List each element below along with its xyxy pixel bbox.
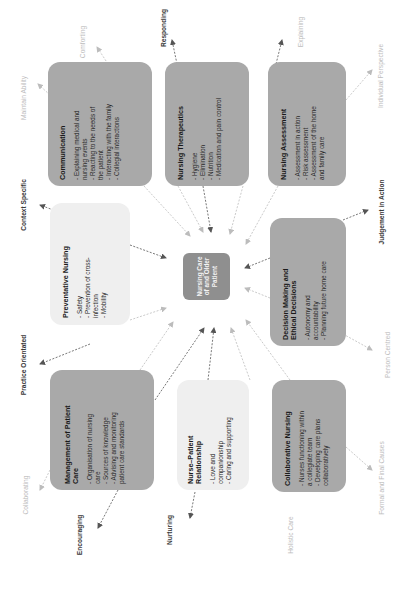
box-item: the patient — [97, 150, 105, 180]
arrow-preventative-to-center — [130, 245, 166, 258]
box-item: - Love and — [209, 453, 216, 484]
arrow-collaborative-to-center — [231, 328, 250, 380]
box-item: - Medication and pain control — [215, 98, 223, 180]
arrow-to-explaining — [276, 40, 282, 64]
box-item: - Caring and supporting — [225, 417, 233, 484]
label-collaborating: Collaborating — [22, 475, 30, 514]
box-item: - Organisation of nursing — [86, 414, 94, 484]
arrow-assessment-to-center — [230, 186, 243, 234]
box-title: Relationship — [194, 440, 203, 484]
box-title: Communication — [58, 126, 67, 180]
arrow-decision-to-center — [245, 258, 270, 268]
arrow-to-formal-final-causes — [346, 447, 372, 470]
box-nurse-patient-relationship: Nurse–Patient Relationship - Love and co… — [177, 380, 249, 490]
box-item: - Autonomy and — [304, 295, 312, 340]
box-item: infection — [92, 294, 99, 318]
arrow-to-judgement-in-action — [343, 210, 368, 220]
label-encouraging: Encouraging — [76, 515, 84, 555]
nursing-care-diagram: Communication - Explaining medical and n… — [0, 0, 404, 602]
label-formal-final-causes: Formal and Final Causes — [378, 440, 385, 514]
box-item: collaboratively — [322, 445, 330, 486]
box-item: - Prevention of cross- — [84, 257, 91, 318]
arrow-to-collaborating — [40, 470, 50, 490]
box-item: - Nurses functioning within — [298, 411, 306, 486]
arrow-to-encouraging — [98, 490, 118, 528]
box-item: nursing events — [81, 138, 89, 180]
arrow-decision-to-center-2 — [245, 288, 270, 298]
label-person-centred: Person Centred — [384, 332, 391, 379]
arrow-therapeutics-to-center — [203, 186, 211, 232]
arrow-to-individual-perspective — [346, 70, 372, 100]
box-title: Nursing Assessment — [279, 108, 288, 180]
box-preventative-nursing: Preventative Nursing - Safety - Preventi… — [50, 203, 130, 325]
arrow-to-person-centred — [343, 334, 372, 350]
box-item: care — [94, 471, 101, 484]
box-item: - Planning future home care — [320, 261, 328, 340]
box-item: - Developing care plans — [314, 419, 322, 486]
box-item: accountability — [312, 300, 320, 340]
box-communication: Communication - Explaining medical and n… — [48, 62, 152, 186]
box-title: Preventative Nursing — [61, 246, 70, 318]
label-judgement-in-action: Judgement in Action — [378, 180, 386, 245]
box-item: - Interacting with the family — [105, 103, 113, 180]
box-title: Ethical Decisions — [289, 280, 298, 340]
box-item: - Hygiene — [191, 152, 199, 180]
box-item: - Explaining medical and — [73, 110, 81, 180]
box-item: and family care — [318, 136, 326, 180]
box-nursing-therapeutics: Nursing Therapeutics - Hygiene - Elimina… — [165, 62, 249, 186]
center-node: Nursing Care of and Older Patient — [183, 253, 230, 300]
arrow-to-practice-orientated — [40, 344, 90, 364]
label-responding: Responding — [160, 9, 168, 47]
arrow-relationship-to-center — [208, 328, 214, 380]
box-title: Nursing Therapeutics — [176, 106, 185, 180]
box-item: - Nutrition — [207, 152, 214, 180]
arrow-comm-to-center-2 — [178, 186, 203, 232]
box-item: - Elimination — [199, 144, 206, 180]
arrow-preventative-to-center-2 — [130, 308, 166, 320]
box-item: - Collegial interactions — [113, 117, 121, 180]
label-practice-orientated: Practice Orientated — [20, 335, 27, 395]
box-collaborative-nursing: Collaborative Nursing - Nurses functioni… — [272, 380, 346, 492]
box-management-patient-care: Management of Patient Care - Organisatio… — [50, 370, 154, 490]
box-nursing-assessment: Nursing Assessment - Assessment in actio… — [268, 62, 346, 186]
box-item: - Assessment of the home — [310, 106, 317, 180]
box-decision-making: Decision Making and Ethical Decisions - … — [270, 218, 346, 346]
label-comforting: Comforting — [79, 26, 87, 59]
label-individual-perspective: Individual Perspective — [377, 44, 385, 108]
label-maintain-ability: Maintain Ability — [20, 75, 28, 120]
label-context-specific: Context Specific — [20, 179, 28, 231]
label-holistic-care: Holistic Care — [287, 516, 294, 554]
arrow-management-to-center — [140, 322, 173, 370]
box-item: a collegiate team — [306, 438, 314, 486]
arrow-to-comforting — [97, 47, 108, 64]
box-item: - Safety — [76, 295, 84, 318]
arrow-to-nurturing — [190, 492, 195, 518]
box-item: - Advising and monitoring — [110, 412, 118, 484]
box-item: - Reacting to the needs of — [89, 107, 97, 180]
arrow-to-responding — [172, 40, 177, 64]
box-item: companionship — [217, 441, 225, 484]
label-explaining: Explaining — [297, 16, 305, 47]
center-line-3: Patient — [211, 265, 218, 287]
arrow-communication-to-center — [144, 186, 190, 236]
box-item: - Mobility — [100, 292, 108, 318]
box-item: - Risk assessment — [302, 128, 309, 180]
box-item: - Sources of knowledge — [102, 417, 110, 484]
box-title: Care — [71, 468, 80, 484]
center-line-2: of and Older — [203, 257, 210, 295]
label-nurturing: Nurturing — [166, 515, 174, 545]
box-item: - Assessment in action — [294, 116, 301, 180]
box-title: Collaborative Nursing — [283, 411, 292, 486]
box-item: patient care standards — [118, 421, 126, 484]
